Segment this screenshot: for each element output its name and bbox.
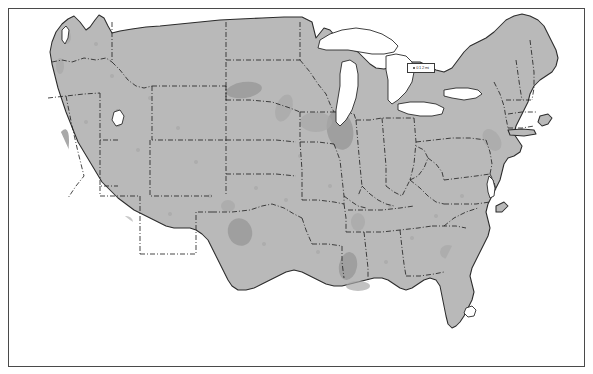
lake-okeechobee (464, 306, 476, 317)
density-speck (136, 148, 140, 152)
density-speck (84, 120, 88, 124)
cape-cod (538, 114, 552, 126)
scale-dot-icon (413, 67, 415, 69)
density-texas-panhandle (221, 200, 235, 212)
density-speck (460, 194, 464, 198)
density-speck (410, 236, 414, 240)
density-speck (328, 184, 332, 188)
density-speck (284, 198, 288, 202)
density-speck (254, 186, 258, 190)
density-west-tennessee (351, 213, 365, 231)
us-map-graphic[interactable] (0, 0, 593, 374)
density-phoenix (119, 216, 133, 228)
us-landmass-outline (50, 14, 558, 328)
density-speck (434, 214, 438, 218)
scale-label: 0 1 2 mi (416, 66, 429, 70)
density-speck (262, 242, 266, 246)
density-speck (316, 250, 320, 254)
long-island (508, 129, 536, 136)
density-louisiana-coast (346, 281, 370, 291)
outer-banks (496, 202, 508, 212)
density-speck (148, 96, 152, 100)
density-speck (176, 126, 180, 130)
density-southern-california (54, 208, 74, 224)
landmass-group (50, 14, 558, 328)
density-illinois-iowa (300, 112, 332, 132)
map-scale-box[interactable]: 0 1 2 mi (407, 63, 435, 73)
density-speck (384, 260, 388, 264)
map-figure: 0 1 2 mi (0, 0, 593, 374)
density-speck (94, 42, 98, 46)
density-speck (194, 160, 198, 164)
density-speck (110, 74, 114, 78)
density-speck (168, 212, 172, 216)
